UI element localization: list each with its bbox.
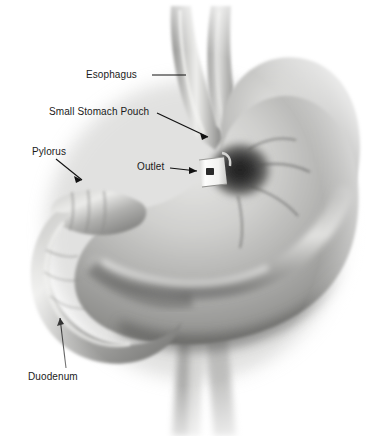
label-pylorus: Pylorus — [32, 146, 66, 157]
label-esophagus: Esophagus — [86, 69, 137, 80]
stomach-illustration-figure: Esophagus Small Stomach Pouch Pylorus Ou… — [0, 0, 366, 436]
label-duodenum: Duodenum — [28, 371, 78, 382]
label-small-stomach-pouch: Small Stomach Pouch — [49, 106, 149, 117]
label-outlet: Outlet — [137, 161, 164, 172]
